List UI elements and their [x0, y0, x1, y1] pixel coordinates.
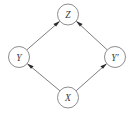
edge-x-to-y-line	[28, 64, 60, 91]
edge-layer	[27, 21, 108, 91]
edge-y-to-z-line	[27, 22, 60, 50]
edge-y-prime-to-z	[76, 21, 107, 50]
edge-x-to-y-prime-line	[76, 64, 106, 91]
node-layer: Z Y Y′ X	[9, 4, 126, 108]
edge-x-to-y	[27, 63, 60, 90]
node-x[interactable]: X	[58, 87, 79, 108]
node-z[interactable]: Z	[58, 4, 79, 25]
node-y[interactable]: Y	[9, 47, 30, 68]
node-x-label: X	[64, 93, 72, 103]
node-y-prime[interactable]: Y′	[105, 47, 126, 68]
node-y-prime-label: Y′	[111, 53, 119, 63]
dag-graphic: Z Y Y′ X	[0, 0, 134, 114]
node-z-label: Z	[65, 10, 71, 20]
edge-y-prime-to-z-line	[77, 22, 108, 50]
edge-x-to-y-prime	[76, 63, 107, 90]
diagram-canvas: Z Y Y′ X	[0, 0, 134, 114]
edge-y-to-z	[27, 21, 60, 50]
